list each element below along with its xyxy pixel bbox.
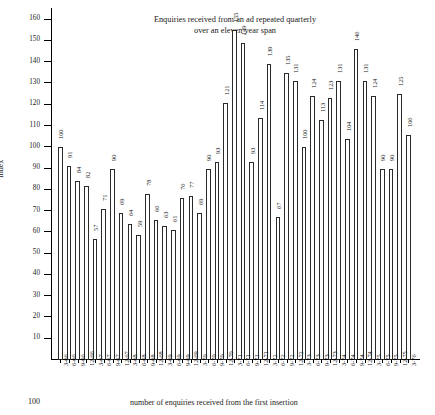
bar [406,135,411,360]
x-tick-label: 6-70 [211,354,217,366]
y-tick-label: 160 [18,15,40,22]
bar-value-label: 100 [302,130,308,139]
bar-value-label: 123 [328,81,334,90]
x-tick-label: 12-74 [367,351,373,366]
bar [197,213,202,360]
y-tick-label: 140 [18,58,40,65]
y-tick-label: 50 [18,249,40,256]
x-tick-label: 9-72 [289,354,295,366]
x-tick-mark [269,359,270,363]
bar-value-label: 93 [250,148,256,154]
baseline-index-label: 100 [28,397,40,406]
y-tick-label: 100 [18,143,40,150]
bar [67,166,72,360]
bar [171,230,176,360]
bar [284,73,289,360]
bar-value-label: 125 [398,77,404,86]
bar [363,81,368,360]
bar [215,162,220,360]
x-tick-label: 9-73 [324,354,330,366]
bar [397,94,402,360]
y-tick-label: 70 [18,207,40,214]
y-tick-label: 20 [18,313,40,320]
bar [232,30,237,360]
x-tick-label: 9-71 [254,354,260,366]
bar [249,162,254,360]
y-tick-label: 60 [18,228,40,235]
x-tick-label: 9-69 [185,354,191,366]
bar-value-label: 61 [172,216,178,222]
bar [154,220,159,360]
bar-value-label: 76 [180,184,186,190]
bar-value-label: 71 [102,195,108,201]
x-tick-label: 12-75 [402,351,408,366]
x-tick-label: 6-75 [385,354,391,366]
bar-value-label: 59 [137,220,143,226]
y-tick-label: 30 [18,292,40,299]
x-tick-label: 3-67 [98,354,104,366]
x-tick-label: 12-68 [158,351,164,366]
bar [336,81,341,360]
x-tick-label: 3-68 [132,354,138,366]
bar [354,49,359,360]
bar-value-label: 131 [363,64,369,73]
x-tick-label: 9-66 [80,354,86,366]
chart-root: Enquiries received from an ad repeated q… [0,0,435,415]
y-tick-label: 150 [18,36,40,43]
bar-value-label: 139 [267,47,273,56]
y-tick-label: 10 [18,334,40,341]
x-tick-mark [182,359,183,363]
x-tick-mark [95,359,96,363]
bar-value-label: 106 [407,117,413,126]
plot-area: 1009184825771906964597866636176776990931… [51,8,420,360]
bar [319,120,324,360]
y-tick-label: 80 [18,185,40,192]
bar [206,169,211,360]
bar-value-label: 121 [224,85,230,94]
bar-value-label: 124 [372,79,378,88]
bar-value-label: 66 [154,205,160,211]
bar [223,103,228,360]
y-tick-label: 120 [18,100,40,107]
bar-value-label: 131 [337,64,343,73]
bar-value-label: 155 [233,13,239,22]
bar [293,81,298,360]
bar [180,198,185,360]
bar-series: 1009184825771906964597866636176776990931… [51,8,420,360]
x-axis-caption: number of enquiries received from the fi… [130,398,298,407]
bar-value-label: 104 [346,121,352,130]
bar [276,217,281,360]
x-tick-label: 9-67 [115,354,121,366]
x-tick-label: 6-68 [141,354,147,366]
x-tick-label: 12-72 [298,351,304,366]
bar-value-label: 100 [58,130,64,139]
bar-value-label: 90 [389,154,395,160]
bar-value-label: 135 [285,55,291,64]
y-tick-label: 90 [18,164,40,171]
bar [267,64,272,360]
x-tick-label: 3-76 [411,354,417,366]
bar-value-label: 82 [85,171,91,177]
bar [110,169,115,360]
bar-value-label: 90 [380,154,386,160]
bar [380,169,385,360]
bar [302,147,307,360]
x-tick-label: 3-73 [306,354,312,366]
bar [345,139,350,360]
bar [93,239,98,360]
bar [258,118,263,361]
bar-value-label: 63 [163,212,169,218]
x-tick-label: 12-73 [332,351,338,366]
x-tick-label: 3-74 [341,354,347,366]
x-tick-label: 3-70 [202,354,208,366]
bar [119,213,124,360]
y-tick-label: 130 [18,79,40,86]
bar-value-label: 84 [76,167,82,173]
bar [371,96,376,360]
bar-value-label: 149 [241,26,247,35]
bar [101,209,106,360]
bar-value-label: 78 [146,180,152,186]
y-axis-label: Index [0,160,5,178]
x-tick-label: 3-66 [63,354,69,366]
x-tick-label: 12-70 [228,351,234,366]
